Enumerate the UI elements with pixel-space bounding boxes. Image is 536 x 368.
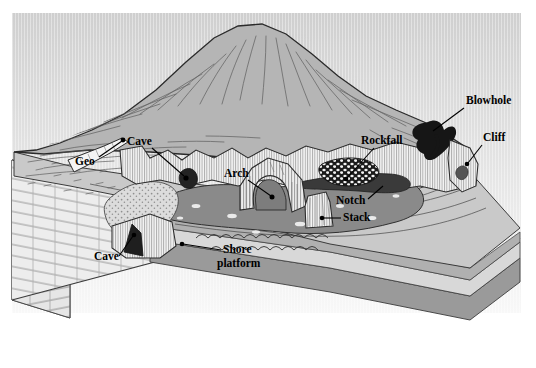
label-shore-platform-line1: Shore (223, 243, 252, 255)
label-shore-platform-line2: platform (217, 257, 261, 270)
label-rockfall-text: Rockfall (361, 134, 403, 146)
rockfall-debris (319, 158, 379, 186)
figure-canvas: Geo Cave Arch Rockfall Blowhole Cliff (0, 0, 536, 368)
label-blowhole-text: Blowhole (466, 94, 511, 106)
label-stack-text: Stack (343, 211, 371, 223)
label-cave-upper-text: Cave (127, 135, 152, 147)
label-notch-text: Notch (336, 194, 366, 206)
coastal-landforms-diagram: Geo Cave Arch Rockfall Blowhole Cliff (0, 0, 536, 368)
label-cave-lower-text: Cave (94, 250, 119, 262)
label-arch-text: Arch (224, 167, 249, 179)
label-geo-text: Geo (75, 155, 95, 167)
label-cliff-text: Cliff (483, 131, 506, 143)
